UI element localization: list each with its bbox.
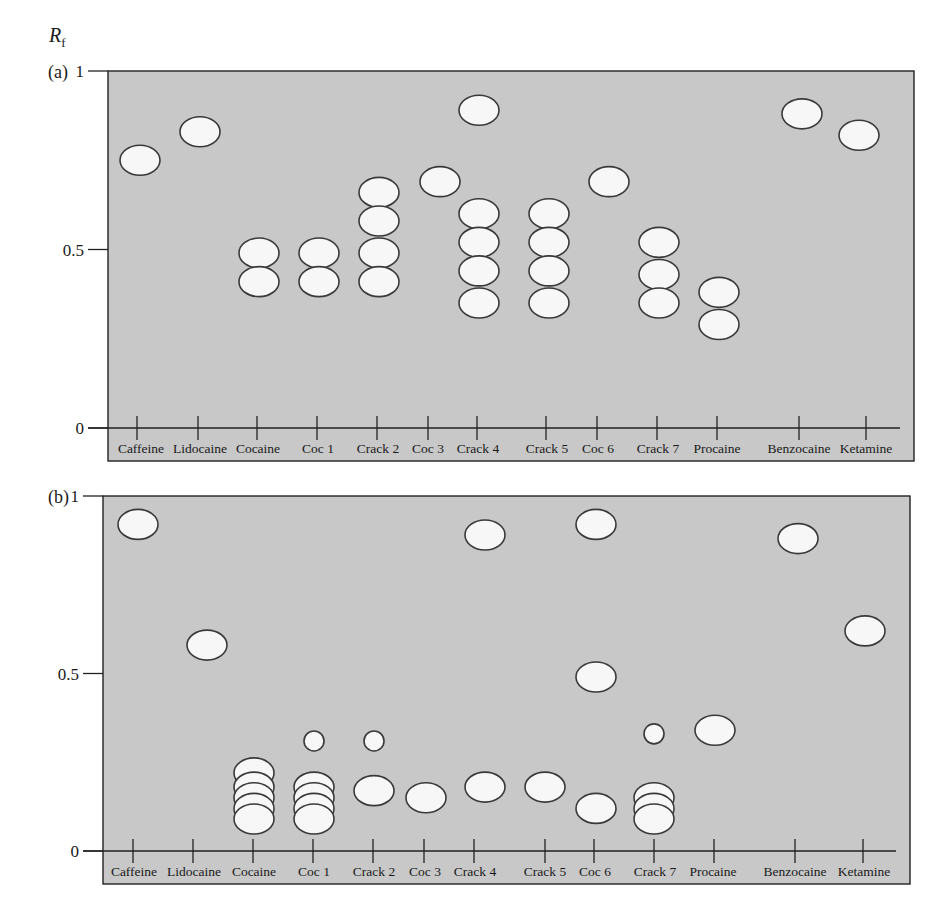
spot [459,288,499,318]
panel-label: (b) [48,487,69,508]
y-tick-label: 0.5 [63,241,84,260]
spot [239,267,279,297]
spot [299,238,339,268]
spot [459,256,499,286]
lane-label: Cocaine [236,441,280,456]
spot [459,95,499,125]
lane-label: Benzocaine [768,441,831,456]
lane-label: Coc 6 [579,864,611,879]
lane-label: Lidocaine [167,864,221,879]
lane-label: Coc 1 [302,441,334,456]
lane-label: Coc 1 [298,864,330,879]
lane-label: Crack 5 [524,864,567,879]
spot [459,227,499,257]
spot [639,288,679,318]
lane-label: Coc 6 [582,441,614,456]
spot [234,804,274,834]
spot [634,804,674,834]
spot [359,267,399,297]
spot [187,630,227,660]
spot [364,731,384,751]
lane-label: Lidocaine [173,441,227,456]
spot [529,227,569,257]
spot [639,259,679,289]
spot [120,145,160,175]
y-tick-label: 1 [76,62,85,81]
spot [406,783,446,813]
lane-label: Ketamine [838,864,890,879]
spot [576,793,616,823]
y-tick-label: 0 [76,419,85,438]
spot [304,731,324,751]
lane-label: Crack 7 [637,441,680,456]
tlc-figure: Rf (a)10.50CaffeineLidocaineCocaineCoc 1… [0,0,931,918]
lane-label: Crack 4 [457,441,500,456]
spot [459,199,499,229]
spot [529,256,569,286]
lane-label: Crack 5 [526,441,569,456]
spot [576,662,616,692]
y-tick-label: 0.5 [58,665,79,684]
spot [782,99,822,129]
spot [359,238,399,268]
spot [359,177,399,207]
spot [699,277,739,307]
lane-label: Coc 3 [412,441,444,456]
spot [695,715,735,745]
panel-label: (a) [48,62,68,83]
spot [465,520,505,550]
spot [299,267,339,297]
spot [699,309,739,339]
spot [354,776,394,806]
lane-label: Caffeine [111,864,157,879]
spot [294,804,334,834]
y-axis-label: Rf [48,24,66,50]
lane-label: Crack 7 [634,864,677,879]
spot [239,238,279,268]
spot [576,509,616,539]
spot [589,167,629,197]
spot [529,199,569,229]
y-tick-label: 0 [71,842,80,861]
spot [465,772,505,802]
lane-label: Ketamine [840,441,892,456]
lane-label: Crack 2 [357,441,399,456]
lane-label: Caffeine [118,441,164,456]
spot [529,288,569,318]
lane-label: Procaine [689,864,736,879]
spot [639,227,679,257]
lane-label: Crack 4 [454,864,497,879]
spot [420,167,460,197]
spot [839,120,879,150]
spot [845,616,885,646]
lane-label: Benzocaine [764,864,827,879]
panel-a: (a)10.50CaffeineLidocaineCocaineCoc 1Cra… [48,62,914,461]
panel-b: (b)10.50CaffeineLidocaineCocaineCoc 1Cra… [48,487,910,884]
lane-label: Procaine [693,441,740,456]
lane-label: Crack 2 [353,864,395,879]
tlc-plate [103,496,910,884]
lane-label: Coc 3 [409,864,441,879]
y-tick-label: 1 [71,487,80,506]
spot [180,117,220,147]
spot [118,509,158,539]
spot [359,206,399,236]
tlc-plate [108,71,914,461]
lane-label: Cocaine [232,864,276,879]
spot [778,524,818,554]
spot [644,724,664,744]
spot [525,772,565,802]
